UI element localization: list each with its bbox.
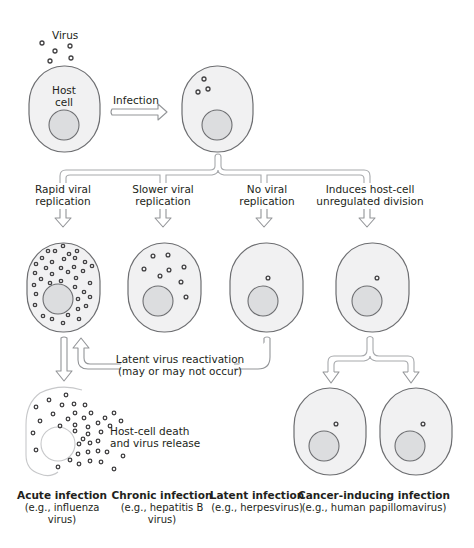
infected-cell: [182, 66, 253, 152]
cell-nucleus: [248, 286, 278, 316]
outcome-example-2: virus): [148, 514, 176, 525]
host-cell-label-1: Host: [52, 84, 76, 96]
outcome-title: Chronic infection: [112, 489, 213, 501]
outcome-title: Cancer-inducing infection: [298, 489, 450, 501]
division-cell: [336, 243, 409, 332]
infection-label: Infection: [113, 94, 159, 106]
down-arrow-cancer-right: [403, 372, 419, 383]
down-arrow-none: [256, 209, 272, 227]
outcome-title: Latent infection: [210, 489, 304, 501]
free-viruses: [40, 41, 73, 63]
virus-particle: [69, 56, 73, 60]
infection-arrow: [111, 104, 167, 120]
reactivation-label-1: Latent virus reactivation: [116, 353, 244, 365]
virus-label: Virus: [52, 29, 78, 41]
outcome-example-1: (e.g., influenza: [25, 502, 100, 513]
branch-down-arrows: [55, 209, 375, 227]
branch-label-division-2: unregulated division: [316, 195, 423, 207]
death-label-1: Host-cell death: [110, 425, 189, 437]
outcome-latent: Latent infection (e.g., herpesvirus): [210, 489, 304, 513]
cell-nucleus: [352, 286, 382, 316]
branch-label-division-1: Induces host-cell: [326, 183, 415, 195]
branch-label-none-2: replication: [239, 195, 294, 207]
virus-particle: [68, 44, 72, 48]
virus-particle: [53, 49, 57, 53]
down-arrow-cancer-left: [323, 372, 339, 383]
ruptured-nucleus: [41, 427, 75, 461]
slower-replication-cell: [128, 243, 201, 332]
death-label-2: and virus release: [110, 437, 200, 449]
outcome-example-1: (e.g., hepatitis B: [121, 502, 204, 513]
cell-membrane: [294, 388, 366, 475]
host-cell-label-2: cell: [55, 96, 73, 108]
outcome-example-1: (e.g., herpesvirus): [211, 502, 303, 513]
rapid-replication-cell: [27, 243, 100, 332]
host-cell: Host cell: [29, 66, 100, 152]
division-connector: [323, 337, 419, 384]
infected-cell-nucleus: [202, 110, 232, 140]
virus-particle: [48, 59, 52, 63]
viral-infection-diagram: Virus Host cell Infection Rapid viral re…: [0, 0, 474, 548]
outcome-example-1: (e.g., human papillomavirus): [302, 502, 447, 513]
branch-label-rapid-2: replication: [35, 195, 90, 207]
latent-cell: [230, 243, 303, 332]
cancer-cell-left: [294, 388, 366, 475]
branch-label-rapid-1: Rapid viral: [35, 183, 91, 195]
outcome-chronic: Chronic infection (e.g., hepatitis B vir…: [112, 489, 213, 525]
outcome-acute: Acute infection (e.g., influenza virus): [17, 489, 107, 525]
branch-label-slower-2: replication: [135, 195, 190, 207]
reactivation-label-2: (may or may not occur): [118, 365, 242, 377]
outcome-example-2: virus): [48, 514, 76, 525]
outcome-title: Acute infection: [17, 489, 107, 501]
branch-connector: [60, 154, 370, 183]
outcome-cancer: Cancer-inducing infection (e.g., human p…: [298, 489, 450, 513]
host-cell-nucleus: [49, 110, 79, 140]
branch-labels: Rapid viral replication Slower viral rep…: [35, 183, 424, 207]
cell-nucleus: [309, 431, 339, 461]
branch-label-none-1: No viral: [247, 183, 287, 195]
cell-nucleus: [395, 431, 425, 461]
cell-nucleus: [143, 286, 173, 316]
cell-membrane: [380, 388, 452, 475]
down-arrow-rapid: [55, 209, 71, 227]
branch-label-slower-1: Slower viral: [132, 183, 194, 195]
down-arrow-slower: [155, 209, 171, 227]
virus-particle: [40, 41, 44, 45]
down-arrow-division: [359, 209, 375, 227]
cancer-cell-right: [380, 388, 452, 475]
down-arrow-death: [56, 337, 72, 381]
cell-nucleus: [43, 284, 73, 314]
